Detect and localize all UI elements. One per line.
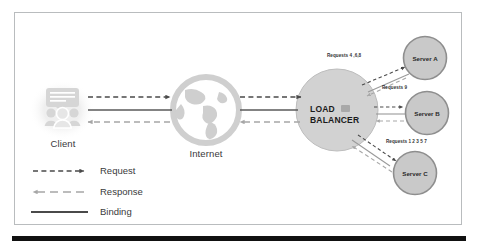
load-balancer-badge-icon [341,105,350,112]
client-label: Client [32,138,94,149]
server-b-label: Server B [407,110,447,117]
edge-lb-serverA-request [362,67,405,85]
load-balancer-label: LOAD BALANCER [310,104,359,125]
legend-label-request: Request [100,165,135,176]
load-balancer-label-line2: BALANCER [310,115,359,125]
server-a-label: Server A [405,55,445,62]
legend-label-response: Response [100,186,143,197]
edge-label-requests-server-c: Requests 1 2 3 5 7 [386,139,427,144]
server-c-label: Server C [395,170,435,177]
edge-lb-serverC-response [352,146,392,172]
internet-label: Internet [175,148,237,159]
diagram-canvas: LOAD BALANCER Server A Server B Server C… [0,0,478,250]
bottom-rule [12,236,466,241]
legend-label-binding: Binding [100,206,132,217]
diagram-graphics [0,0,478,250]
edge-label-requests-server-b: Requests 9 [382,85,407,90]
globe-icon [173,77,239,143]
load-balancer-label-line1: LOAD [310,104,335,114]
edge-label-requests-server-a: Requests 4 ,6,8 [327,53,361,58]
